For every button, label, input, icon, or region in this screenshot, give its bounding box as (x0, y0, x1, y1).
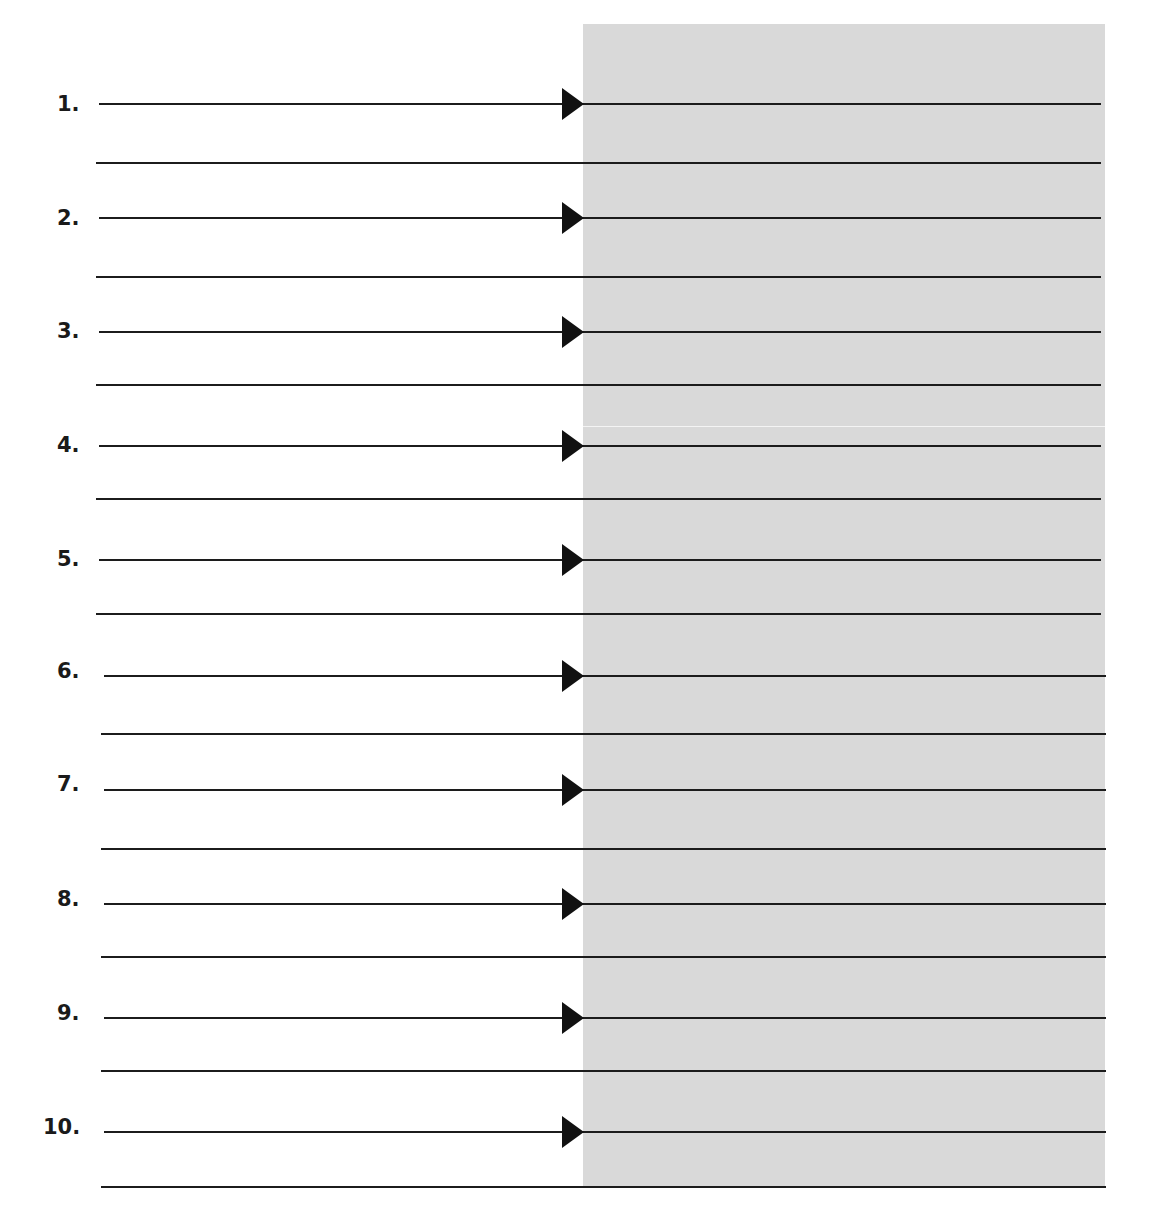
arrow-right-icon (562, 202, 584, 234)
row-8-second-line[interactable] (101, 956, 1106, 958)
row-6-input-line[interactable] (104, 675, 1106, 677)
row-7-second-line[interactable] (101, 848, 1106, 850)
row-number-9: 9. (57, 1003, 80, 1024)
shaded-answer-column (583, 24, 1105, 1187)
row-1-second-line[interactable] (96, 162, 1101, 164)
row-2-second-line[interactable] (96, 276, 1101, 278)
row-number-7: 7. (57, 774, 80, 795)
row-10-input-line[interactable] (104, 1131, 1106, 1133)
row-3-input-line[interactable] (99, 331, 1101, 333)
arrow-right-icon (562, 660, 584, 692)
arrow-right-icon (562, 430, 584, 462)
row-number-6: 6. (57, 661, 80, 682)
row-number-8: 8. (57, 889, 80, 910)
row-4-second-line[interactable] (96, 498, 1101, 500)
row-2-input-line[interactable] (99, 217, 1101, 219)
row-10-second-line[interactable] (101, 1186, 1106, 1188)
row-9-second-line[interactable] (101, 1070, 1106, 1072)
row-number-4: 4. (57, 435, 80, 456)
row-5-second-line[interactable] (96, 613, 1101, 615)
row-7-input-line[interactable] (104, 789, 1106, 791)
row-5-input-line[interactable] (99, 559, 1101, 561)
clipped-header-text (700, 0, 1120, 6)
shade-seam (583, 426, 1105, 427)
arrow-right-icon (562, 774, 584, 806)
row-number-5: 5. (57, 549, 80, 570)
row-6-second-line[interactable] (101, 733, 1106, 735)
row-1-input-line[interactable] (99, 103, 1101, 105)
arrow-right-icon (562, 1116, 584, 1148)
row-9-input-line[interactable] (104, 1017, 1106, 1019)
arrow-right-icon (562, 316, 584, 348)
arrow-right-icon (562, 88, 584, 120)
arrow-right-icon (562, 888, 584, 920)
arrow-right-icon (562, 1002, 584, 1034)
row-number-3: 3. (57, 321, 80, 342)
row-8-input-line[interactable] (104, 903, 1106, 905)
row-3-second-line[interactable] (96, 384, 1101, 386)
arrow-right-icon (562, 544, 584, 576)
row-number-1: 1. (57, 94, 80, 115)
row-number-10: 10. (43, 1117, 80, 1138)
row-number-2: 2. (57, 208, 80, 229)
row-4-input-line[interactable] (99, 445, 1101, 447)
